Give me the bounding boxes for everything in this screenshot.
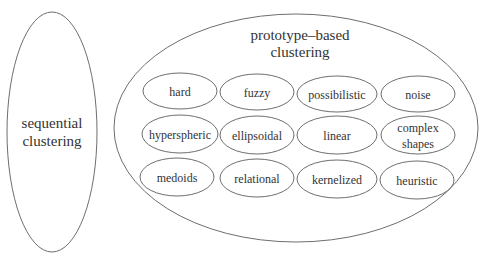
sequential-label-line2: clustering [22, 133, 82, 149]
item-label: kernelized [312, 173, 362, 187]
item-label: noise [405, 88, 430, 102]
item-heuristic: heuristic [380, 161, 454, 199]
item-label: heuristic [396, 174, 437, 188]
item-complex-shapes: complex shapes [381, 116, 455, 154]
item-label: hard [169, 85, 190, 99]
item-label-line2: shapes [402, 137, 434, 151]
item-hard: hard [143, 73, 217, 109]
prototype-label-line1: prototype–based [250, 27, 350, 43]
item-label: ellipsoidal [232, 129, 283, 143]
item-label: linear [323, 129, 350, 143]
item-relational: relational [220, 159, 294, 197]
item-kernelized: kernelized [297, 160, 377, 198]
item-ellipsoidal: ellipsoidal [220, 116, 294, 154]
sequential-label-line1: sequential [22, 115, 83, 131]
item-fuzzy: fuzzy [220, 74, 294, 110]
clustering-diagram: sequential clustering prototype–based cl… [0, 0, 487, 264]
sequential-clustering-node: sequential clustering [7, 12, 97, 252]
item-label: fuzzy [244, 86, 271, 100]
item-label: relational [234, 172, 280, 186]
item-linear: linear [297, 116, 377, 154]
item-label-line1: complex [397, 121, 438, 135]
item-noise: noise [381, 76, 455, 112]
prototype-label-line2: clustering [270, 44, 330, 60]
item-possibilistic: possibilistic [297, 76, 377, 112]
item-label: medoids [157, 171, 198, 185]
item-medoids: medoids [140, 158, 214, 196]
item-label: possibilistic [308, 88, 365, 102]
item-label: hyperspheric [149, 128, 211, 142]
item-hyperspheric: hyperspheric [142, 115, 218, 153]
